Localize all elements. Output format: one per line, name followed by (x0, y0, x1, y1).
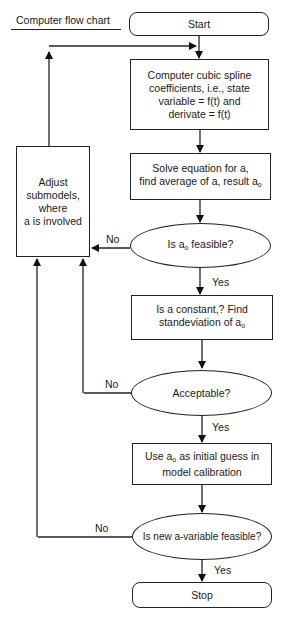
spline-line-4: derivate = f(t) (168, 108, 230, 121)
spline-line-3: variable = f(t) and (158, 95, 240, 108)
solve-process-node: Solve equation for a, find average of a,… (130, 153, 271, 200)
yes-label-2: Yes (212, 421, 229, 433)
solve-line-2: find average of a, result ao (139, 175, 261, 191)
constant-stdev-process-node: Is a constant,? Find standeviation of ao (131, 295, 273, 340)
yes-label-1: Yes (212, 276, 229, 288)
solve-line-1: Solve equation for a, (152, 162, 248, 175)
new-variable-feasible-decision: Is new a-variable feasible? (132, 513, 272, 560)
spline-process-node: Computer cubic spline coefficients, i.e.… (130, 59, 269, 130)
acceptable-decision: Acceptable? (131, 370, 272, 416)
no-label-2: No (105, 378, 118, 390)
start-node: Start (129, 12, 269, 36)
initial-guess-process-node: Use ao as initial guess in model calibra… (132, 443, 272, 485)
spline-line-1: Computer cubic spline (148, 69, 252, 82)
spline-line-2: coefficients, i.e., state (149, 82, 250, 95)
yes-label-3: Yes (214, 564, 231, 576)
no-label-1: No (106, 233, 119, 245)
stop-node: Stop (132, 582, 272, 608)
no-label-3: No (95, 522, 108, 534)
adjust-submodels-node: Adjust submodels, where a is involved (16, 146, 90, 257)
is-ao-feasible-decision: Is ao feasible? (130, 223, 271, 268)
